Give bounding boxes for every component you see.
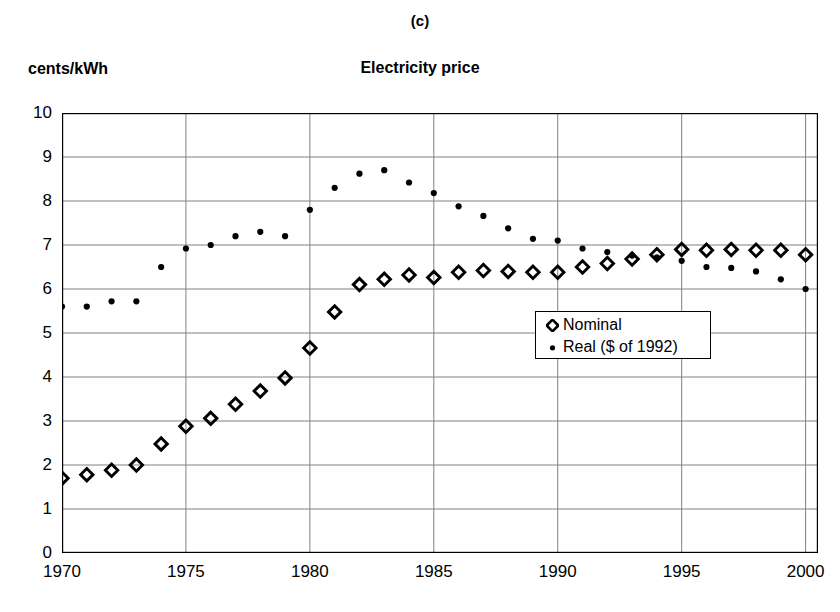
y-tick-label: 0 [12, 543, 52, 563]
x-tick-label: 2000 [771, 562, 840, 582]
data-point-real [232, 233, 238, 239]
data-point-nominal [527, 266, 539, 278]
data-point-nominal [328, 306, 340, 318]
y-tick-label: 9 [12, 147, 52, 167]
y-tick-label: 8 [12, 191, 52, 211]
x-tick-label: 1970 [27, 562, 97, 582]
y-tick-label: 5 [12, 323, 52, 343]
data-point-real [406, 179, 412, 185]
data-point-nominal [81, 468, 93, 480]
figure-container: (c) Electricity price cents/kWh 01234567… [0, 0, 840, 612]
data-point-nominal [477, 264, 489, 276]
data-point-real [431, 190, 437, 196]
data-point-real [555, 238, 561, 244]
data-point-real [679, 258, 685, 264]
y-tick-label: 3 [12, 411, 52, 431]
data-point-nominal [576, 261, 588, 273]
data-point-nominal [700, 244, 712, 256]
data-point-real [455, 203, 461, 209]
data-point-real [629, 252, 635, 258]
y-tick-label: 4 [12, 367, 52, 387]
data-point-real [183, 245, 189, 251]
data-point-nominal [279, 372, 291, 384]
data-point-real [604, 249, 610, 255]
data-point-nominal [155, 438, 167, 450]
data-point-real [654, 254, 660, 260]
data-point-real [579, 245, 585, 251]
data-point-real [108, 298, 114, 304]
data-point-real [257, 229, 263, 235]
y-axis-label: cents/kWh [28, 60, 108, 78]
data-point-real [282, 233, 288, 239]
data-point-nominal [502, 265, 514, 277]
data-point-real [307, 207, 313, 213]
data-point-real [356, 171, 362, 177]
data-point-nominal [105, 464, 117, 476]
data-point-nominal [205, 412, 217, 424]
open-diamond-icon [543, 319, 561, 332]
data-point-real [84, 304, 90, 310]
data-point-real [62, 304, 65, 310]
legend-label-nominal: Nominal [563, 316, 622, 334]
chart-title: Electricity price [0, 59, 840, 77]
legend-item-real: Real ($ of 1992) [543, 336, 704, 358]
y-tick-label: 6 [12, 279, 52, 299]
y-tick-label: 10 [12, 103, 52, 123]
data-point-real [530, 236, 536, 242]
data-point-real [703, 264, 709, 270]
x-tick-label: 1990 [523, 562, 593, 582]
legend-item-nominal: Nominal [543, 314, 704, 336]
data-point-nominal [378, 273, 390, 285]
data-point-real [753, 268, 759, 274]
data-point-real [208, 242, 214, 248]
data-point-real [332, 185, 338, 191]
data-point-nominal [403, 269, 415, 281]
panel-label: (c) [0, 12, 840, 29]
x-tick-label: 1975 [151, 562, 221, 582]
data-point-nominal [254, 385, 266, 397]
x-tick-label: 1980 [275, 562, 345, 582]
data-point-nominal [452, 266, 464, 278]
data-point-real [803, 286, 809, 292]
x-tick-label: 1985 [399, 562, 469, 582]
legend-label-real: Real ($ of 1992) [563, 338, 678, 356]
data-point-real [728, 265, 734, 271]
legend: Nominal Real ($ of 1992) [535, 311, 711, 359]
y-tick-label: 2 [12, 455, 52, 475]
data-point-real [505, 225, 511, 231]
data-point-nominal [601, 257, 613, 269]
data-point-real [480, 213, 486, 219]
y-tick-label: 1 [12, 499, 52, 519]
data-point-nominal [775, 244, 787, 256]
x-tick-label: 1995 [647, 562, 717, 582]
data-point-real [381, 167, 387, 173]
data-point-nominal [750, 244, 762, 256]
filled-dot-icon [543, 341, 561, 354]
y-tick-label: 7 [12, 235, 52, 255]
data-point-nominal [229, 398, 241, 410]
data-point-real [158, 264, 164, 270]
data-point-real [133, 298, 139, 304]
data-point-real [778, 276, 784, 282]
